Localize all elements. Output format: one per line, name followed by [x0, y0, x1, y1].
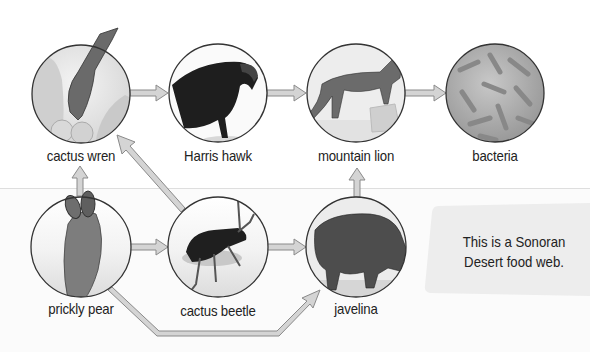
- label-harris-hawk: Harris hawk: [156, 147, 279, 164]
- arrow-lion-to-bacteria: [405, 85, 446, 101]
- arrow-javelina-to-lion: [349, 168, 365, 197]
- label-mountain-lion: mountain lion: [294, 147, 417, 164]
- label-bacteria: bacteria: [433, 147, 556, 164]
- node-prickly-pear: [31, 191, 131, 300]
- node-harris-hawk: [169, 44, 267, 144]
- label-prickly-pear: prickly pear: [19, 300, 142, 317]
- callout-line-1: This is a Sonoran: [452, 232, 575, 252]
- arrow-hawk-to-lion: [267, 85, 306, 101]
- callout-line-2: Desert food web.: [452, 252, 575, 272]
- label-cactus-beetle: cactus beetle: [156, 302, 279, 319]
- label-javelina: javelina: [294, 300, 417, 317]
- node-mountain-lion: [300, 44, 410, 145]
- label-cactus-wren: cactus wren: [19, 147, 142, 164]
- node-cactus-beetle: [168, 197, 268, 297]
- arrow-wren-to-hawk: [130, 85, 168, 101]
- arrow-beetle-to-javelina: [267, 239, 306, 255]
- node-cactus-wren: [30, 28, 135, 150]
- node-javelina: [300, 197, 412, 300]
- callout-text: This is a Sonoran Desert food web.: [452, 232, 575, 272]
- arrow-pear-to-beetle: [130, 239, 168, 255]
- node-bacteria: [446, 44, 544, 142]
